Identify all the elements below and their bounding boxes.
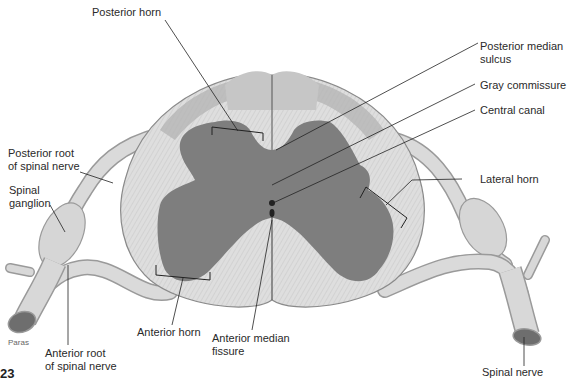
label-gray-commissure: Gray commissure <box>480 79 566 92</box>
label-anterior-median-fissure: Anterior median fissure <box>212 332 290 358</box>
label-anterior-horn: Anterior horn <box>137 326 201 339</box>
credit-text: Paras <box>8 336 29 349</box>
label-posterior-median-sulcus: Posterior median sulcus <box>480 40 563 66</box>
label-anterior-root: Anterior root of spinal nerve <box>45 347 117 373</box>
label-spinal-ganglion: Spinal ganglion <box>9 184 51 210</box>
figure-number: 23 <box>0 367 14 380</box>
label-spinal-nerve: Spinal nerve <box>482 366 543 379</box>
label-posterior-horn: Posterior horn <box>92 6 161 19</box>
label-central-canal: Central canal <box>480 104 545 117</box>
label-lateral-horn: Lateral horn <box>480 173 539 186</box>
central-canal <box>269 200 275 206</box>
label-posterior-root: Posterior root of spinal nerve <box>8 147 80 173</box>
